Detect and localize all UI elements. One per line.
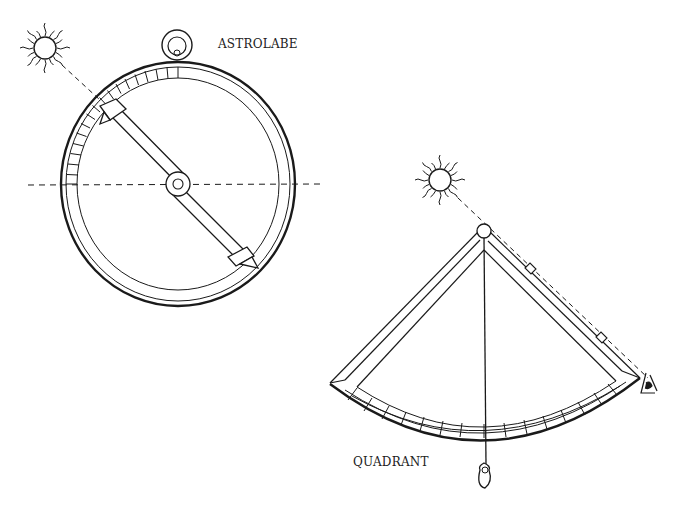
quadrant-label: QUADRANT	[353, 455, 429, 469]
astrolabe	[20, 23, 322, 306]
diagram-svg	[0, 0, 681, 516]
suspension-ring-icon	[162, 30, 192, 60]
diagram-canvas: ASTROLABE QUADRANT	[0, 0, 681, 516]
astrolabe-label: ASTROLABE	[218, 37, 298, 51]
sun-icon	[415, 155, 465, 205]
quadrant	[330, 155, 657, 488]
plumb-bob-icon	[479, 463, 491, 488]
pivot	[477, 224, 491, 238]
eye-icon	[641, 373, 657, 393]
alidade	[100, 99, 258, 268]
quadrant-scale-ticks	[348, 384, 617, 438]
